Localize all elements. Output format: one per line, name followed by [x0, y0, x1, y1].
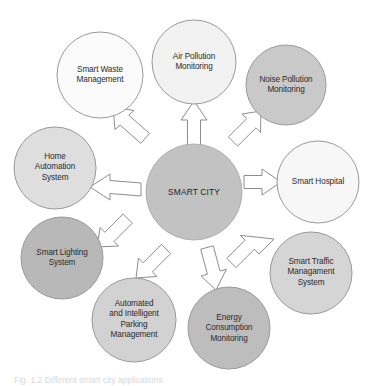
node-circle-automated-parking-management	[92, 278, 176, 362]
node-circle-air-pollution-monitoring	[152, 20, 236, 104]
arrow-to-energy-consumption-monitoring	[201, 246, 227, 290]
node-circle-smart-lighting-system	[21, 217, 103, 299]
arrow-to-smart-traffic-management-system	[227, 235, 274, 267]
node-circle-energy-consumption-monitoring	[188, 287, 270, 369]
diagram-canvas: SMART CITY Air Pollution Monitoring Nois…	[0, 0, 373, 386]
arrow-to-air-pollution-monitoring	[181, 101, 207, 146]
node-circle-smart-waste-management	[57, 32, 143, 118]
arrow-to-smart-lighting-system	[97, 214, 132, 247]
figure-caption: Fig. 1.2 Different smart city applicatio…	[14, 374, 354, 386]
node-circle-smart-traffic-management-system	[270, 232, 352, 314]
node-circle-smart-hospital	[277, 141, 359, 223]
arrow-to-smart-hospital	[244, 169, 281, 195]
hub-label-smart-city: SMART CITY	[168, 187, 220, 197]
arrow-to-home-automation-system	[90, 174, 141, 200]
node-circle-home-automation-system	[14, 127, 96, 209]
node-circle-noise-pollution-monitoring	[246, 45, 326, 125]
arrow-to-noise-pollution-monitoring	[228, 111, 261, 146]
arrow-to-automated-parking-management	[136, 244, 171, 278]
